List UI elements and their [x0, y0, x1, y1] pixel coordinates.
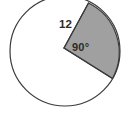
geometry-figure: 12 90° — [0, 0, 130, 118]
central-angle-label: 90° — [72, 42, 89, 53]
radius-length-label: 12 — [59, 19, 72, 31]
